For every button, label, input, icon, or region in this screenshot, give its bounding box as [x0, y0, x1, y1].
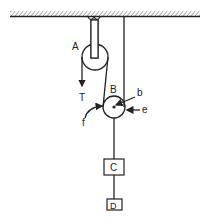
arrow-e-label: e [142, 104, 148, 115]
pulley-b-axle [112, 105, 115, 108]
block-d-label: D [110, 201, 117, 211]
pulley-diagram: A T B b e f C D [0, 0, 206, 218]
block-c-label: C [110, 162, 117, 173]
arrow-b-label: b [137, 87, 143, 98]
arrow-f [85, 106, 102, 118]
pulley-a-label: A [72, 41, 79, 52]
arrow-f-label: f [82, 117, 85, 128]
pulley-b-label: B [110, 84, 117, 95]
arrow-b [116, 97, 135, 105]
tension-label: T [79, 92, 85, 103]
ceiling [10, 11, 200, 17]
